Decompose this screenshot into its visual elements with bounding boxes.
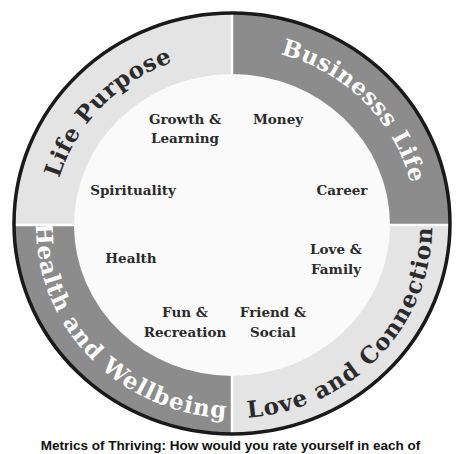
label-growth-learning-line2: Learning — [151, 130, 220, 146]
label-health: Health — [105, 250, 156, 266]
label-friend-social-line2: Social — [250, 324, 296, 340]
inner-circle — [74, 74, 390, 376]
label-fun-recreation-line2: Recreation — [144, 324, 227, 340]
caption: Metrics of Thriving: How would you rate … — [0, 438, 461, 454]
label-spirituality: Spirituality — [90, 182, 177, 198]
label-growth-learning-line1: Growth & — [149, 111, 221, 127]
label-love-family-line1: Love & — [310, 241, 362, 257]
label-money: Money — [253, 111, 304, 127]
label-career: Career — [317, 182, 369, 198]
label-friend-social-line1: Friend & — [240, 304, 306, 320]
label-fun-recreation-line1: Fun & — [162, 304, 208, 320]
label-love-family-line2: Family — [311, 261, 362, 277]
wheel-of-life-diagram: Life Purpose Businesss Life Health and W… — [0, 0, 461, 454]
